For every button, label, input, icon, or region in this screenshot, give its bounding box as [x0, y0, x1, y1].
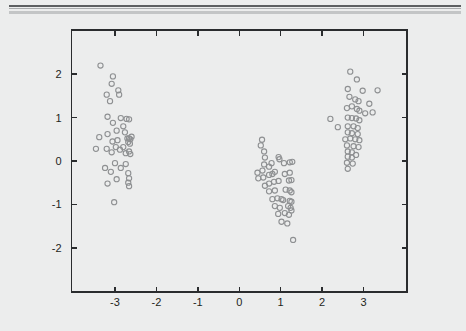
data-point	[256, 176, 261, 181]
data-point	[114, 177, 119, 182]
data-point	[272, 188, 277, 193]
data-point	[105, 114, 110, 119]
data-point	[105, 181, 110, 186]
data-point	[109, 81, 114, 86]
data-point	[356, 145, 361, 150]
x-tick-label: 2	[319, 296, 325, 308]
data-point	[104, 92, 109, 97]
series-cluster-right	[328, 69, 380, 171]
data-point	[266, 181, 271, 186]
data-point	[121, 124, 126, 129]
x-tick-label: -3	[110, 296, 120, 308]
data-point	[114, 128, 119, 133]
data-point	[349, 104, 354, 109]
data-point	[287, 170, 292, 175]
data-point	[328, 116, 333, 121]
data-point	[335, 125, 340, 130]
data-point	[260, 168, 265, 173]
scatter-plot: -3-2-10123-2-1012	[0, 0, 466, 331]
series-cluster-middle	[255, 137, 296, 242]
data-point	[350, 161, 355, 166]
x-tick-label: -2	[152, 296, 162, 308]
data-point	[258, 143, 263, 148]
y-tick-label: -1	[52, 198, 62, 210]
data-point	[367, 101, 372, 106]
data-point	[255, 170, 260, 175]
data-point	[118, 165, 123, 170]
data-point	[281, 161, 286, 166]
data-point	[126, 184, 131, 189]
data-point	[262, 149, 267, 154]
data-point	[261, 175, 266, 180]
data-point	[262, 155, 267, 160]
data-point	[122, 130, 127, 135]
x-tick-label: 0	[236, 296, 242, 308]
data-point	[344, 160, 349, 165]
data-point	[344, 105, 349, 110]
data-point	[291, 237, 296, 242]
data-points	[93, 63, 380, 243]
data-point	[110, 74, 115, 79]
y-tick-label: -2	[52, 242, 62, 254]
data-point	[110, 139, 115, 144]
data-point	[272, 204, 277, 209]
data-point	[98, 63, 103, 68]
data-point	[108, 169, 113, 174]
data-point	[110, 120, 115, 125]
data-point	[270, 197, 275, 202]
data-point	[126, 171, 131, 176]
data-point	[348, 136, 353, 141]
data-point	[343, 137, 348, 142]
data-point	[259, 137, 264, 142]
data-point	[102, 165, 107, 170]
plot-frame	[72, 30, 408, 292]
data-point	[285, 221, 290, 226]
data-point	[93, 146, 98, 151]
data-point	[344, 143, 349, 148]
data-point	[281, 197, 286, 202]
data-point	[347, 94, 352, 99]
data-point	[354, 77, 359, 82]
series-cluster-left	[93, 63, 134, 205]
data-point	[370, 110, 375, 115]
data-point	[262, 162, 267, 167]
data-point	[123, 161, 128, 166]
data-point	[375, 88, 380, 93]
data-point	[276, 211, 281, 216]
data-point	[351, 144, 356, 149]
data-point	[104, 146, 109, 151]
axis-tick-labels: -3-2-10123-2-1012	[52, 68, 367, 308]
data-point	[107, 99, 112, 104]
data-point	[279, 219, 284, 224]
data-point	[115, 138, 120, 143]
data-point	[345, 166, 350, 171]
y-tick-label: 1	[55, 112, 61, 124]
x-tick-label: 3	[360, 296, 366, 308]
x-tick-label: -1	[193, 296, 203, 308]
y-tick-label: 0	[55, 155, 61, 167]
data-point	[112, 200, 117, 205]
data-point	[109, 150, 114, 155]
data-point	[277, 205, 282, 210]
y-tick-label: 2	[55, 68, 61, 80]
data-point	[345, 86, 350, 91]
figure-container: -3-2-10123-2-1012	[0, 0, 466, 331]
data-point	[353, 152, 358, 157]
data-point	[266, 189, 271, 194]
data-point	[282, 171, 287, 176]
data-point	[112, 161, 117, 166]
data-point	[355, 132, 360, 137]
data-point	[97, 135, 102, 140]
data-point	[363, 111, 368, 116]
data-point	[105, 132, 110, 137]
data-point	[118, 115, 123, 120]
data-point	[345, 124, 350, 129]
x-tick-label: 1	[278, 296, 284, 308]
axis-ticks	[72, 30, 408, 292]
data-point	[360, 88, 365, 93]
data-point	[348, 69, 353, 74]
